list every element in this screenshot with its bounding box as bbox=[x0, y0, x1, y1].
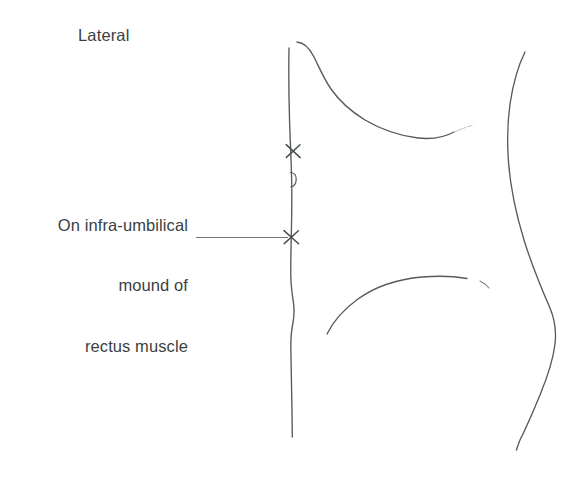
view-label-lateral: Lateral bbox=[78, 25, 130, 45]
callout-line-2: mound of bbox=[8, 275, 188, 295]
nipple-tick bbox=[468, 126, 472, 127]
anterior-torso-contour-path bbox=[289, 48, 294, 437]
figure-canvas: Lateral On infra-umbilical mound of rect… bbox=[0, 0, 588, 477]
inframammary-contour-path bbox=[297, 42, 454, 138]
callout-line-1: On infra-umbilical bbox=[8, 215, 188, 235]
upper-injection-site-marker bbox=[286, 145, 300, 158]
inframammary-contour-tip bbox=[454, 127, 466, 132]
inguinal-fold-tick bbox=[480, 281, 489, 288]
callout-line-3: rectus muscle bbox=[8, 336, 188, 356]
inguinal-fold-path bbox=[327, 276, 467, 334]
injection-site-callout: On infra-umbilical mound of rectus muscl… bbox=[8, 174, 188, 397]
posterior-back-contour-path bbox=[508, 52, 556, 450]
